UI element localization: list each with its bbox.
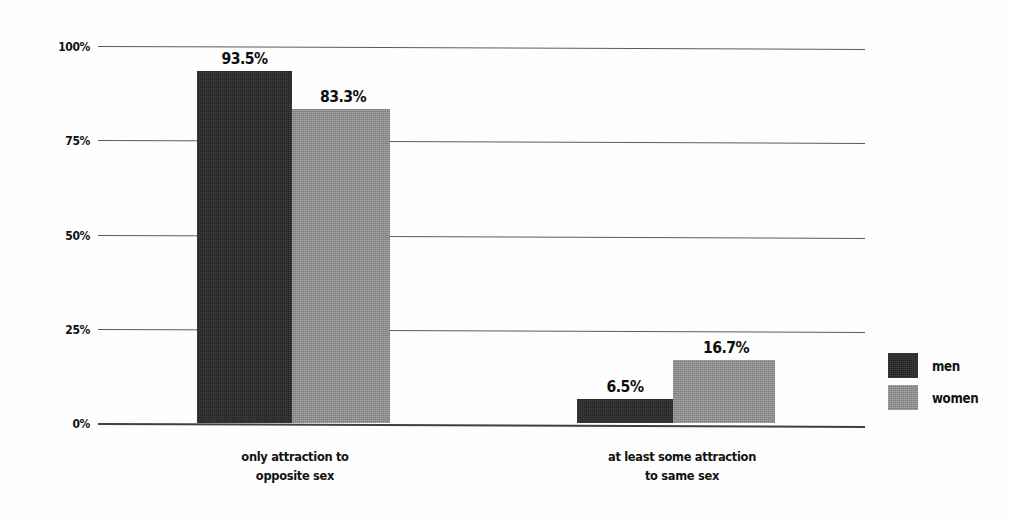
bar-men-same-sex[interactable] [577, 399, 673, 424]
legend-label-men: men [932, 358, 960, 374]
category-label-opposite-sex: only attraction to opposite sex [194, 448, 396, 486]
y-tick-label-100: 100% [26, 39, 90, 54]
legend-item-men[interactable]: men [888, 350, 1008, 381]
bar-women-same-sex[interactable] [673, 360, 775, 423]
value-label-women-opposite-sex: 83.3% [300, 87, 386, 106]
y-axis: 100% 75% 50% 25% 0% [6, 46, 90, 423]
bar-chart: 100% 75% 50% 25% 0% 93.5% 83.3% 6.5% 16.… [0, 0, 1013, 520]
y-tick-label-50: 50% [26, 227, 90, 242]
legend-swatch-women-icon [888, 385, 918, 410]
value-label-men-same-sex: 6.5% [583, 377, 667, 396]
y-tick-label-25: 25% [26, 321, 90, 336]
bar-women-opposite-sex[interactable] [292, 109, 390, 423]
category-label-same-sex-line2: to same sex [576, 467, 787, 486]
y-tick-label-0: 0% [26, 416, 90, 431]
legend-swatch-men-icon [888, 353, 918, 378]
category-label-same-sex-line1: at least some attraction [608, 449, 756, 464]
category-label-opposite-sex-line2: opposite sex [194, 467, 396, 486]
category-label-opposite-sex-line1: only attraction to [241, 449, 348, 464]
plot-area: 93.5% 83.3% 6.5% 16.7% [98, 46, 865, 423]
value-label-men-opposite-sex: 93.5% [203, 49, 287, 68]
category-label-same-sex: at least some attraction to same sex [576, 448, 787, 486]
legend: men women [888, 350, 1008, 414]
value-label-women-same-sex: 16.7% [681, 338, 771, 357]
legend-item-women[interactable]: women [888, 382, 1008, 413]
y-tick-label-75: 75% [26, 133, 90, 148]
bar-men-opposite-sex[interactable] [197, 71, 292, 424]
axis-baseline [98, 423, 865, 428]
legend-label-women: women [932, 390, 978, 406]
